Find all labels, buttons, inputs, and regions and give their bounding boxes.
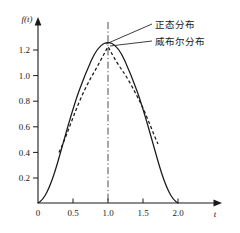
y-axis <box>35 17 42 203</box>
x-axis <box>38 200 222 207</box>
y-axis-arrowhead <box>35 17 42 26</box>
y-axis-ticks <box>33 50 38 178</box>
x-tick-label: 1.5 <box>137 208 149 218</box>
y-tick-label: 1.0 <box>19 71 31 81</box>
y-tick-label: 0.4 <box>19 148 31 158</box>
distribution-comparison-chart: 0.2 0.4 0.6 0.8 1.0 1.2 0 0.5 1.0 1.5 2.… <box>0 0 240 233</box>
x-axis-ticks <box>73 199 178 204</box>
y-tick-label: 0.8 <box>19 96 31 106</box>
annotation-leader-lines <box>106 24 152 46</box>
y-tick-label: 0.2 <box>19 173 30 183</box>
series-label-weibull: 威布尔分布 <box>155 36 205 47</box>
chart-figure: 0.2 0.4 0.6 0.8 1.0 1.2 0 0.5 1.0 1.5 2.… <box>0 0 240 233</box>
x-tick-label: 1.0 <box>102 208 114 218</box>
x-tick-label: 0 <box>36 208 41 218</box>
y-axis-tick-labels: 0.2 0.4 0.6 0.8 1.0 1.2 <box>19 45 31 183</box>
series-label-normal: 正态分布 <box>155 19 195 30</box>
x-tick-label: 2.0 <box>172 208 184 218</box>
x-axis-tick-labels: 0 0.5 1.0 1.5 2.0 <box>36 208 184 218</box>
x-axis-arrowhead <box>214 200 223 207</box>
y-tick-label: 1.2 <box>19 45 30 55</box>
y-tick-label: 0.6 <box>19 122 31 132</box>
x-axis-title: t <box>214 209 217 219</box>
x-tick-label: 0.5 <box>67 208 79 218</box>
curve-weibull <box>59 47 158 153</box>
y-axis-title: f(t) <box>22 14 33 24</box>
